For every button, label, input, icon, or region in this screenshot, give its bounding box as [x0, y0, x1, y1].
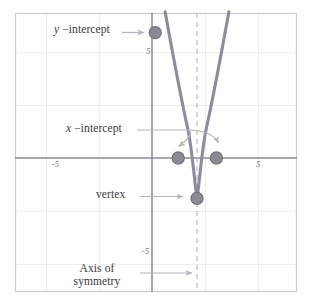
- x-intercept-label: x −intercept: [66, 122, 122, 135]
- x-intercept-label-text: −intercept: [71, 122, 122, 134]
- y-axis-tick-label-positive: 5: [146, 46, 150, 56]
- axis-of-symmetry-label-line1: Axis of: [60, 262, 134, 275]
- y-intercept-label: y −intercept: [54, 23, 110, 36]
- x-axis-tick-label-negative: -5: [52, 159, 59, 169]
- point-x-intercept-right: [210, 152, 222, 164]
- point-vertex: [191, 192, 203, 204]
- y-intercept-label-text: −intercept: [59, 23, 110, 35]
- plot-background: [15, 13, 297, 292]
- point-x-intercept-left: [172, 152, 184, 164]
- x-axis-tick-label-positive: 5: [256, 159, 260, 169]
- axis-of-symmetry-label-line2: symmetry: [60, 275, 134, 288]
- point-y-intercept: [149, 26, 161, 38]
- axis-of-symmetry-label: Axis ofsymmetry: [60, 262, 134, 288]
- vertex-label: vertex: [96, 188, 125, 201]
- parabola-plot: [0, 0, 315, 306]
- figure-canvas: 5 -5 -5 5 y −intercept x −intercept vert…: [0, 0, 315, 306]
- y-axis-tick-label-negative: -5: [142, 246, 149, 256]
